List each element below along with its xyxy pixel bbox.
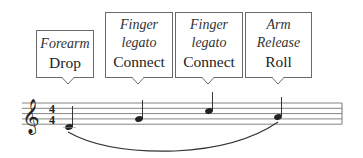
staff-lines [22,103,342,124]
music-staff: 𝄞 4 4 [0,0,363,158]
note-g4 [273,97,282,121]
note-a4 [204,92,213,115]
callout-tails [62,78,284,85]
slur [68,122,278,151]
treble-clef-icon: 𝄞 [22,98,40,135]
svg-text:4: 4 [49,113,55,127]
time-signature: 4 4 [49,102,55,127]
